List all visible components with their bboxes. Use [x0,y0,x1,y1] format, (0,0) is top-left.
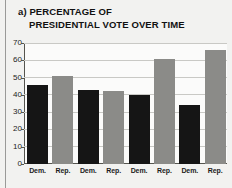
x-tick-label-0: Dem. [25,167,50,174]
y-tick-label-50: 50 [2,74,22,82]
y-tick-mark-70 [21,43,24,44]
y-tick-mark-30 [21,112,24,113]
chart-figure: a) PERCENTAGE OF PRESIDENTIAL VOTE OVER … [0,0,232,188]
y-tick-label-0: 0 [2,160,22,168]
bar-dem-4 [129,95,150,164]
y-tick-label-20: 20 [2,125,22,133]
chart-title-line2: PRESIDENTIAL VOTE OVER TIME [18,19,224,32]
y-tick-label-40: 40 [2,91,22,99]
plot-area [24,43,227,164]
y-tick-label-70: 70 [2,39,22,47]
y-tick-mark-10 [21,147,24,148]
y-tick-label-10: 10 [2,143,22,151]
gridline-70 [24,43,227,44]
x-tick-label-2: Dem. [76,167,101,174]
chart-title-line1: PERCENTAGE OF [29,6,111,17]
bar-rep-3 [103,91,124,164]
bar-dem-2 [78,90,99,164]
bar-rep-7 [205,50,226,164]
bar-dem-6 [179,105,200,164]
x-tick-label-7: Rep. [203,167,228,174]
bar-rep-5 [154,59,175,164]
y-tick-label-60: 60 [2,56,22,64]
y-axis-tick-labels: 010203040506070 [0,43,22,164]
chart-title-label: a) [18,6,27,17]
x-axis-tick-labels: Dem.Rep.Dem.Rep.Dem.Rep.Dem.Rep. [24,167,227,181]
gridline-60 [24,60,227,61]
x-tick-label-4: Dem. [127,167,152,174]
y-tick-mark-40 [21,95,24,96]
y-tick-mark-60 [21,60,24,61]
y-tick-mark-0 [21,164,24,165]
x-tick-label-5: Rep. [152,167,177,174]
y-tick-label-30: 30 [2,108,22,116]
x-tick-label-1: Rep. [50,167,75,174]
bar-rep-1 [52,76,73,164]
bar-dem-0 [27,85,48,165]
x-tick-label-3: Rep. [101,167,126,174]
y-tick-mark-20 [21,129,24,130]
x-tick-label-6: Dem. [177,167,202,174]
chart-title: a) PERCENTAGE OF PRESIDENTIAL VOTE OVER … [18,6,224,31]
y-tick-mark-50 [21,78,24,79]
